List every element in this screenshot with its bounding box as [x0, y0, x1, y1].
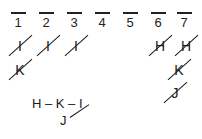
mark-col7-row1: H: [173, 33, 199, 59]
column-header-label-5: 5: [126, 15, 133, 30]
worksheet-canvas: 1 2 3 4 5 6 7 I I I H H: [0, 0, 202, 139]
column-header-label-2: 2: [42, 15, 49, 30]
column-header-6: 6: [148, 12, 168, 29]
mark-col1-row1: I: [7, 33, 33, 59]
overline-rule-4: [95, 12, 110, 14]
column-header-7: 7: [174, 12, 194, 29]
mark-col6-row1: H: [147, 33, 173, 59]
bottom-annotation: H – K – I J: [32, 96, 142, 138]
mark-col1-row2: K: [7, 57, 33, 83]
overline-rule-1: [11, 12, 26, 14]
column-header-4: 4: [92, 12, 112, 29]
column-header-5: 5: [120, 12, 140, 29]
column-header-label-1: 1: [14, 15, 21, 30]
mark-col2-row1: I: [35, 33, 61, 59]
mark-col3-row1: I: [63, 33, 89, 59]
column-header-label-6: 6: [154, 15, 161, 30]
overline-rule-7: [177, 12, 192, 14]
column-header-3: 3: [64, 12, 84, 29]
annotation-chain: H – K – I: [32, 96, 83, 111]
column-header-label-7: 7: [180, 15, 187, 30]
overline-rule-3: [67, 12, 82, 14]
overline-rule-2: [39, 12, 54, 14]
annotation-sub-letter: J: [60, 113, 67, 128]
column-header-1: 1: [8, 12, 28, 29]
column-header-label-4: 4: [98, 15, 105, 30]
column-header-label-3: 3: [70, 15, 77, 30]
overline-rule-5: [123, 12, 138, 14]
mark-col7-row3: J: [162, 80, 188, 106]
overline-rule-6: [151, 12, 166, 14]
column-header-2: 2: [36, 12, 56, 29]
